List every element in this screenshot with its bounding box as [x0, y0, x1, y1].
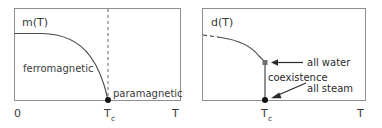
panel2-y-axis-label: d(T) — [211, 16, 233, 29]
phase-transition-diagram: m(T) ferromagnetic paramagnetic 0 T c T … — [0, 0, 382, 128]
panel2-x-critical-subscript: c — [268, 114, 272, 123]
panel2-density-curve-dashed — [203, 35, 221, 38]
density-panel: d(T) all water coexistence — [203, 9, 366, 124]
panel2-annotation-coexistence: coexistence — [268, 72, 328, 83]
panel1-region-ferromagnetic: ferromagnetic — [23, 63, 94, 74]
panel1-x-critical-subscript: c — [111, 114, 115, 123]
panel2-annotation-all-steam: all steam — [307, 83, 353, 94]
panel1-y-axis-label: m(T) — [22, 16, 48, 29]
panel2-annotation-all-water: all water — [307, 57, 351, 68]
figure-container: m(T) ferromagnetic paramagnetic 0 T c T … — [0, 0, 382, 128]
panel1-region-paramagnetic: paramagnetic — [113, 88, 183, 99]
panel2-critical-point-marker — [262, 97, 268, 103]
panel2-x-critical-label: T — [260, 107, 268, 120]
panel1-x-origin-label: 0 — [14, 107, 21, 120]
panel1-critical-point-marker — [105, 97, 111, 103]
panel1-x-axis-label: T — [171, 107, 179, 120]
panel2-density-curve — [221, 38, 265, 63]
panel2-x-axis-label: T — [356, 107, 364, 120]
panel1-x-critical-label: T — [103, 107, 111, 120]
magnetization-panel: m(T) ferromagnetic paramagnetic 0 T c T — [14, 9, 183, 124]
panel2-all-steam-arrow-icon — [271, 83, 306, 98]
panel2-all-water-arrow-icon — [271, 59, 303, 65]
panel2-all-water-marker — [263, 60, 268, 65]
